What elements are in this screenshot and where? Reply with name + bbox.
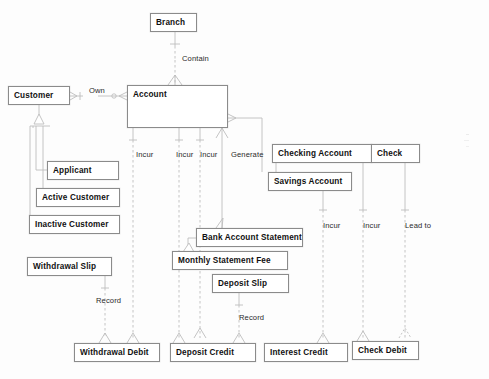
scan-speck	[466, 134, 469, 135]
relationship-label-own: Own	[89, 86, 105, 95]
relationship-label-lead_to: Lead to	[405, 221, 431, 230]
entity-label: Deposit Slip	[218, 279, 267, 288]
entity-label: Customer	[14, 91, 53, 100]
entity-interest_credit[interactable]: Interest Credit	[264, 343, 348, 362]
entity-label: Bank Account Statement	[202, 233, 302, 242]
line-to-inactive-customer	[29, 126, 30, 224]
entity-bank_account_stmt[interactable]: Bank Account Statement	[196, 228, 303, 247]
entity-withdrawal_slip[interactable]: Withdrawal Slip	[27, 257, 112, 276]
relationship-label-incur_2: Incur	[176, 150, 193, 159]
entity-branch[interactable]: Branch	[150, 13, 197, 32]
entity-check[interactable]: Check	[371, 144, 420, 163]
line-account-checking	[228, 118, 262, 144]
entity-account[interactable]: Account	[127, 85, 228, 128]
crowfoot-interest-credit-left	[317, 333, 329, 343]
scan-speck	[464, 140, 469, 141]
entity-withdrawal_debit[interactable]: Withdrawal Debit	[74, 343, 160, 362]
diagram-canvas: BranchCustomerAccountApplicantActive Cus…	[0, 0, 489, 379]
entity-label: Check Debit	[358, 346, 407, 355]
entity-label: Account	[133, 90, 167, 99]
entity-label: Check	[377, 149, 402, 158]
line-to-active-customer	[36, 126, 43, 197]
relationship-label-incur_1: Incur	[136, 150, 153, 159]
inheritance-triangle-customer	[34, 114, 44, 124]
entity-inactive_customer[interactable]: Inactive Customer	[29, 215, 120, 234]
entity-label: Applicant	[53, 166, 92, 175]
crowfoot-deposit-credit-right	[233, 333, 245, 343]
entity-label: Interest Credit	[270, 348, 328, 357]
entity-customer[interactable]: Customer	[8, 86, 70, 105]
relationship-label-record_1: Record	[96, 296, 121, 305]
crowfoot-withdrawal-debit-right	[127, 333, 139, 343]
entity-applicant[interactable]: Applicant	[47, 161, 119, 180]
entity-savings_account[interactable]: Savings Account	[268, 172, 352, 191]
entity-monthly_stmt_fee[interactable]: Monthly Statement Fee	[172, 251, 288, 270]
entity-label: Savings Account	[274, 177, 342, 186]
scan-speck	[466, 146, 469, 147]
entity-label: Deposit Credit	[176, 348, 234, 357]
relationship-label-contain: Contain	[182, 54, 209, 63]
line-to-applicant	[36, 126, 47, 170]
relationship-label-incur_3: Incur	[200, 150, 217, 159]
entity-label: Monthly Statement Fee	[178, 256, 271, 265]
entity-label: Branch	[156, 18, 185, 27]
entity-label: Withdrawal Slip	[33, 262, 96, 271]
entity-deposit_slip[interactable]: Deposit Slip	[212, 274, 289, 293]
crowfoot-deposit-credit-left	[173, 333, 185, 343]
entity-active_customer[interactable]: Active Customer	[36, 188, 120, 207]
relationship-label-record_2: Record	[239, 313, 264, 322]
entity-check_debit[interactable]: Check Debit	[352, 341, 419, 360]
relationship-label-incur_5: Incur	[363, 221, 380, 230]
entity-label: Active Customer	[42, 193, 109, 202]
entity-deposit_credit[interactable]: Deposit Credit	[170, 343, 256, 362]
entity-label: Inactive Customer	[35, 220, 109, 229]
relationship-label-generate: Generate	[231, 150, 263, 159]
entity-label: Withdrawal Debit	[80, 348, 149, 357]
relationship-label-incur_4: Incur	[323, 221, 340, 230]
crowfoot-account-top	[168, 75, 182, 85]
entity-label: Checking Account	[278, 149, 352, 158]
entity-checking_account[interactable]: Checking Account	[272, 144, 372, 163]
